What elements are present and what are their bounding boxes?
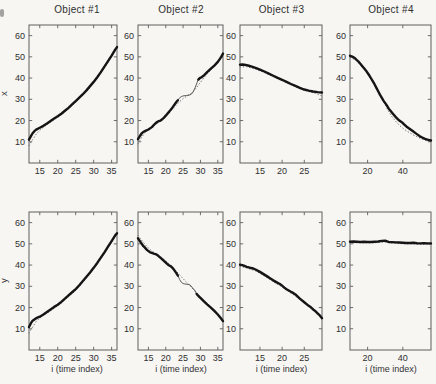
y-tick-label: 30 — [15, 94, 25, 104]
y-tick-label: 30 — [226, 94, 236, 104]
y-tick-label: 60 — [15, 218, 25, 228]
y-tick-label: 30 — [124, 94, 134, 104]
x-tick-label: 30 — [89, 353, 99, 363]
x-tick-label: 20 — [277, 353, 287, 363]
x-tick-label: 25 — [178, 353, 188, 363]
x-tick-label: 20 — [277, 166, 287, 176]
x-tick-label: 15 — [255, 353, 265, 363]
x-tick-label: 20 — [53, 166, 63, 176]
series-trajectory-solid — [29, 47, 117, 140]
plot-object3-x: 152025102030405060 — [213, 15, 330, 181]
y-tick-label: 30 — [226, 281, 236, 291]
x-tick-label: 15 — [35, 166, 45, 176]
axes-box — [350, 25, 431, 163]
y-tick-label: 50 — [15, 52, 25, 62]
y-tick-label: 40 — [124, 73, 134, 83]
y-tick-label: 50 — [336, 52, 346, 62]
x-tick-label: 20 — [161, 353, 171, 363]
y-tick-label: 20 — [336, 303, 346, 313]
axes-box — [138, 25, 223, 163]
x-tick-label: 20 — [161, 166, 171, 176]
plot-object3-y: 152025102030405060 — [213, 202, 330, 368]
y-tick-label: 20 — [336, 116, 346, 126]
x-tick-label: 20 — [363, 166, 373, 176]
y-tick-label: 60 — [124, 218, 134, 228]
x-tick-label: 30 — [89, 166, 99, 176]
plot-object1-x: 1520253035102030405060 — [2, 15, 125, 181]
y-tick-label: 50 — [124, 52, 134, 62]
x-tick-label: 15 — [255, 166, 265, 176]
x-tick-label: 25 — [71, 353, 81, 363]
series-occlusion-thin-segment — [178, 276, 197, 294]
y-tick-label: 20 — [15, 116, 25, 126]
series-trajectory-solid — [350, 241, 431, 244]
x-tick-label: 30 — [195, 166, 205, 176]
x-tick-label: 15 — [143, 353, 153, 363]
x-tick-label: 40 — [398, 166, 408, 176]
x-tick-label: 15 — [35, 353, 45, 363]
y-tick-label: 40 — [336, 73, 346, 83]
axes-box — [240, 25, 322, 163]
x-tick-label: 20 — [53, 353, 63, 363]
y-tick-label: 60 — [336, 31, 346, 41]
y-tick-label: 20 — [124, 116, 134, 126]
y-tick-label: 20 — [15, 303, 25, 313]
axes-box — [350, 212, 431, 350]
y-tick-label: 10 — [336, 137, 346, 147]
y-tick-label: 20 — [124, 303, 134, 313]
y-tick-label: 60 — [336, 218, 346, 228]
series-trajectory-solid — [240, 265, 322, 319]
y-tick-label: 20 — [226, 116, 236, 126]
y-tick-label: 20 — [226, 303, 236, 313]
series-estimate-dotted — [240, 266, 322, 319]
y-tick-label: 30 — [336, 281, 346, 291]
scanned-figure-page: { "page": { "background": "#f7f6f3", "in… — [0, 0, 436, 384]
y-tick-label: 10 — [226, 137, 236, 147]
y-tick-label: 30 — [124, 281, 134, 291]
y-tick-label: 50 — [226, 52, 236, 62]
x-tick-label: 25 — [299, 166, 309, 176]
y-tick-label: 30 — [336, 94, 346, 104]
series-trajectory-solid-before-occlusion — [138, 238, 178, 275]
y-tick-label: 40 — [15, 73, 25, 83]
y-tick-label: 50 — [226, 239, 236, 249]
y-tick-label: 40 — [124, 260, 134, 270]
y-tick-label: 40 — [15, 260, 25, 270]
plot-object1-y: 1520253035102030405060 — [2, 202, 125, 368]
y-tick-label: 60 — [226, 31, 236, 41]
y-tick-label: 30 — [15, 281, 25, 291]
axes-box — [29, 25, 117, 163]
y-tick-label: 50 — [336, 239, 346, 249]
y-tick-label: 60 — [226, 218, 236, 228]
x-tick-label: 40 — [398, 353, 408, 363]
series-trajectory-solid-before-occlusion — [138, 100, 178, 139]
series-estimate-dotted — [29, 48, 117, 145]
series-estimate-dotted — [350, 57, 431, 141]
series-estimate-dotted — [29, 235, 117, 334]
x-tick-label: 25 — [178, 166, 188, 176]
axes-box — [29, 212, 117, 350]
y-tick-label: 40 — [336, 260, 346, 270]
y-tick-label: 10 — [124, 324, 134, 334]
x-tick-label: 20 — [363, 353, 373, 363]
y-tick-label: 40 — [226, 73, 236, 83]
plot-object4-x: 2040102030405060 — [323, 15, 436, 181]
y-tick-label: 60 — [15, 31, 25, 41]
x-tick-label: 25 — [71, 166, 81, 176]
x-tick-label: 30 — [195, 353, 205, 363]
series-trajectory-solid — [29, 233, 117, 327]
x-tick-label: 15 — [143, 166, 153, 176]
y-tick-label: 40 — [226, 260, 236, 270]
y-tick-label: 10 — [336, 324, 346, 334]
y-tick-label: 50 — [15, 239, 25, 249]
xlabel-object4: i (time index) — [323, 364, 436, 376]
y-tick-label: 10 — [124, 137, 134, 147]
y-tick-label: 10 — [226, 324, 236, 334]
y-tick-label: 10 — [15, 137, 25, 147]
y-tick-label: 10 — [15, 324, 25, 334]
series-occlusion-thin-segment — [178, 80, 198, 101]
plot-object4-y: 2040102030405060 — [323, 202, 436, 368]
series-trajectory-solid — [350, 56, 431, 141]
y-tick-label: 60 — [124, 31, 134, 41]
axes-box — [240, 212, 322, 350]
